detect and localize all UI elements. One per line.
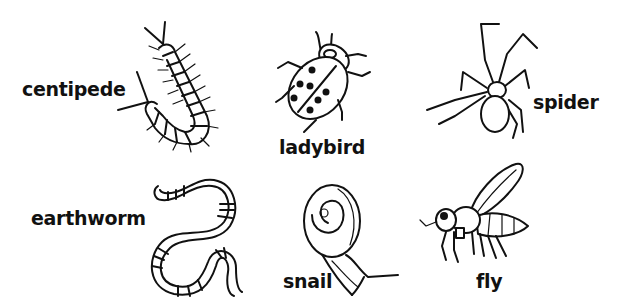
ladybird-icon — [276, 28, 376, 132]
earthworm-label: earthworm — [31, 207, 146, 229]
centipede-label: centipede — [22, 78, 126, 100]
minibeasts-worksheet: centipede — [0, 0, 617, 308]
fly-label: fly — [476, 270, 502, 292]
centipede-icon — [115, 20, 225, 150]
spider-icon — [425, 20, 545, 140]
earthworm-icon — [138, 180, 248, 300]
snail-icon — [298, 183, 403, 298]
ladybird-label: ladybird — [279, 136, 365, 158]
fly-icon — [416, 160, 536, 265]
